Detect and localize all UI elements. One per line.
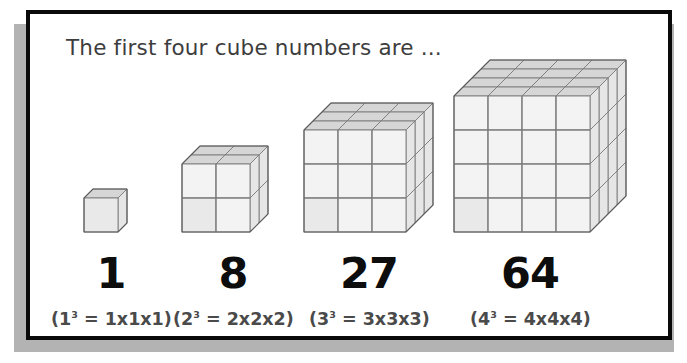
slide-frame: The first four cube numbers are ... 1 8 … bbox=[26, 10, 672, 340]
cube-formulas-row: (13 = 1x1x1) (23 = 2x2x2) (33 = 3x3x3) (… bbox=[30, 302, 668, 332]
cube-numbers-row: 1 8 27 64 bbox=[30, 251, 668, 295]
cube-front-cell bbox=[556, 130, 590, 164]
cube-front-cell bbox=[372, 164, 406, 198]
cube-front-cell bbox=[454, 130, 488, 164]
cube-front-cell bbox=[522, 198, 556, 232]
slide-image: The first four cube numbers are ... 1 8 … bbox=[0, 0, 687, 363]
cube-formula-8: (23 = 2x2x2) bbox=[173, 302, 293, 332]
cube-front-cell bbox=[216, 164, 250, 198]
cube-front-cell bbox=[454, 198, 488, 232]
cube-front-cell bbox=[182, 198, 216, 232]
cube-stack-8 bbox=[176, 140, 274, 238]
cube-front-cell bbox=[372, 198, 406, 232]
cube-front-cell bbox=[488, 130, 522, 164]
cube-stack-1 bbox=[78, 183, 133, 238]
cube-front-cell bbox=[338, 130, 372, 164]
slide-content: The first four cube numbers are ... 1 8 … bbox=[30, 14, 668, 336]
cube-number-1: 1 bbox=[51, 251, 171, 295]
cube-front-cell bbox=[338, 198, 372, 232]
cube-formula-1: (13 = 1x1x1) bbox=[51, 302, 171, 332]
cube-front-cell bbox=[488, 164, 522, 198]
cube-front-cell bbox=[372, 130, 406, 164]
cube-front-cell bbox=[522, 130, 556, 164]
cube-front-cell bbox=[556, 164, 590, 198]
cube-front-cell bbox=[182, 164, 216, 198]
cube-front-cell bbox=[304, 198, 338, 232]
cube-front-cell bbox=[488, 198, 522, 232]
cube-front-cell bbox=[304, 164, 338, 198]
cube-front-cell bbox=[338, 164, 372, 198]
cube-front-cell bbox=[556, 198, 590, 232]
cube-number-8: 8 bbox=[173, 251, 293, 295]
cube-front-cell bbox=[304, 130, 338, 164]
cube-front-cell bbox=[522, 164, 556, 198]
cube-front-cell bbox=[84, 198, 118, 232]
cube-formula-27: (33 = 3x3x3) bbox=[309, 302, 429, 332]
cube-front-cell bbox=[556, 96, 590, 130]
cube-stack-27 bbox=[298, 97, 439, 238]
cube-formula-64: (43 = 4x4x4) bbox=[470, 302, 590, 332]
cube-front-cell bbox=[454, 96, 488, 130]
cube-number-27: 27 bbox=[309, 251, 429, 295]
cube-stack-64 bbox=[448, 54, 632, 238]
cube-front-cell bbox=[522, 96, 556, 130]
cube-number-64: 64 bbox=[470, 251, 590, 295]
cube-front-cell bbox=[216, 198, 250, 232]
cube-front-cell bbox=[488, 96, 522, 130]
cube-front-cell bbox=[454, 164, 488, 198]
